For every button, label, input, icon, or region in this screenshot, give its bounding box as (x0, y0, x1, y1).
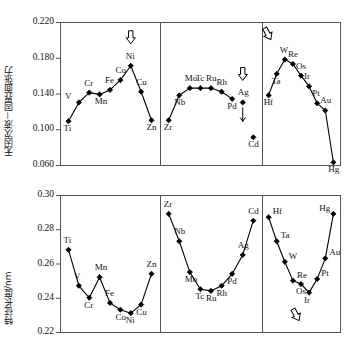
y-tick-label: 0.100 (33, 123, 54, 133)
data-point-Ru (208, 86, 213, 91)
point-label-Cu: Cu (136, 307, 147, 317)
point-label-Tc: Tc (195, 291, 204, 301)
point-label-Rh: Rh (217, 288, 228, 298)
data-point-Zr (166, 211, 171, 216)
y-tick-label: 0.22 (37, 326, 54, 336)
point-label-Au: Au (320, 95, 331, 105)
down-arrow-outline-icon (238, 67, 247, 80)
y-tick-label: 0.060 (33, 159, 54, 169)
point-label-Zn: Zn (147, 122, 157, 132)
point-label-Pd: Pd (227, 276, 237, 286)
point-label-Re: Re (288, 49, 298, 59)
point-label-Ag: Ag (238, 240, 249, 250)
data-point-Pt (315, 276, 320, 281)
point-label-Hf: Hf (264, 97, 274, 107)
point-label-Mo: Mo (185, 274, 198, 284)
point-label-Ir: Ir (304, 295, 310, 305)
point-label-Ru: Ru (206, 293, 217, 303)
data-point-W (282, 57, 287, 62)
data-point-Ti (66, 247, 71, 252)
point-label-Ru: Ru (206, 73, 217, 83)
data-point-Ag (240, 252, 245, 257)
point-label-Zr: Zr (164, 199, 173, 209)
point-label-Ti: Ti (64, 123, 72, 133)
plot-frame (61, 23, 341, 166)
point-label-Cr: Cr (84, 78, 93, 88)
data-point-Hf (266, 215, 271, 220)
point-label-Co: Co (115, 312, 126, 322)
point-label-Hg: Hg (319, 203, 330, 213)
chart-bottom: 特征长度/nm 0.300.280.260.240.22TiVCrMnFeCoN… (0, 177, 349, 357)
y-tick-label: 0.24 (37, 292, 54, 302)
point-label-Ir: Ir (304, 71, 310, 81)
data-point-Tc (198, 86, 203, 91)
point-label-W: W (289, 251, 298, 261)
point-label-Hg: Hg (328, 164, 339, 174)
data-point-Au (323, 256, 328, 261)
point-label-V: V (65, 91, 72, 101)
data-point-W (282, 259, 287, 264)
point-label-V: V (74, 271, 81, 281)
y-tick-label: 0.28 (37, 223, 54, 233)
point-label-Ni: Ni (126, 51, 135, 61)
point-label-Fe: Fe (105, 75, 114, 85)
y-tick-label: 0.30 (37, 189, 54, 199)
point-label-Zr: Zr (164, 122, 173, 132)
point-label-Ta: Ta (281, 230, 290, 240)
series-line (269, 214, 334, 293)
point-label-Os: Os (296, 61, 306, 71)
point-label-Mn: Mn (95, 262, 108, 272)
point-label-Rh: Rh (217, 77, 228, 87)
data-point-Cu (139, 89, 144, 94)
point-label-Cr: Cr (84, 300, 93, 310)
point-label-Re: Re (297, 270, 307, 280)
point-label-Pd: Pd (227, 101, 237, 111)
point-label-Pt: Pt (312, 88, 320, 98)
point-label-Nb: Nb (174, 226, 185, 236)
point-label-Mn: Mn (95, 96, 108, 106)
data-point-Nb (177, 239, 182, 244)
chart-top: 无因次液－固界面张力 0.2200.1800.1400.1000.060TiVC… (0, 0, 349, 180)
up-arrow-outline-icon (289, 307, 303, 323)
data-point-Mn (97, 275, 102, 280)
point-label-Hf: Hf (273, 206, 283, 216)
y-tick-label: 0.140 (33, 88, 54, 98)
detached-point-arrow-icon (240, 107, 245, 121)
point-label-Ti: Ti (64, 235, 72, 245)
y-tick-label: 0.220 (33, 16, 54, 26)
point-label-Tc: Tc (195, 73, 204, 83)
data-point-Cd (251, 218, 256, 223)
data-point-Ag (240, 100, 245, 105)
point-label-Au: Au (329, 247, 340, 257)
data-point-Hg (331, 211, 336, 216)
point-label-Cu: Cu (136, 77, 147, 87)
data-point-Zn (149, 271, 154, 276)
point-label-Ag: Ag (238, 87, 249, 97)
point-label-Co: Co (115, 65, 126, 75)
point-label-Cd: Cd (248, 206, 259, 216)
figure-container: 无因次液－固界面张力 0.2200.1800.1400.1000.060TiVC… (0, 0, 349, 357)
point-label-Nb: Nb (174, 97, 185, 107)
point-label-Ta: Ta (272, 76, 281, 86)
data-point-Re (290, 278, 295, 283)
data-point-Ta (274, 239, 279, 244)
point-label-Zn: Zn (147, 259, 157, 269)
y-tick-label: 0.26 (37, 258, 54, 268)
point-label-Cd: Cd (248, 139, 259, 149)
point-label-Pt: Pt (321, 268, 329, 278)
down-arrow-outline-icon (126, 31, 135, 44)
point-label-Ni: Ni (126, 315, 135, 325)
point-label-Fe: Fe (105, 288, 114, 298)
y-tick-label: 0.180 (33, 52, 54, 62)
